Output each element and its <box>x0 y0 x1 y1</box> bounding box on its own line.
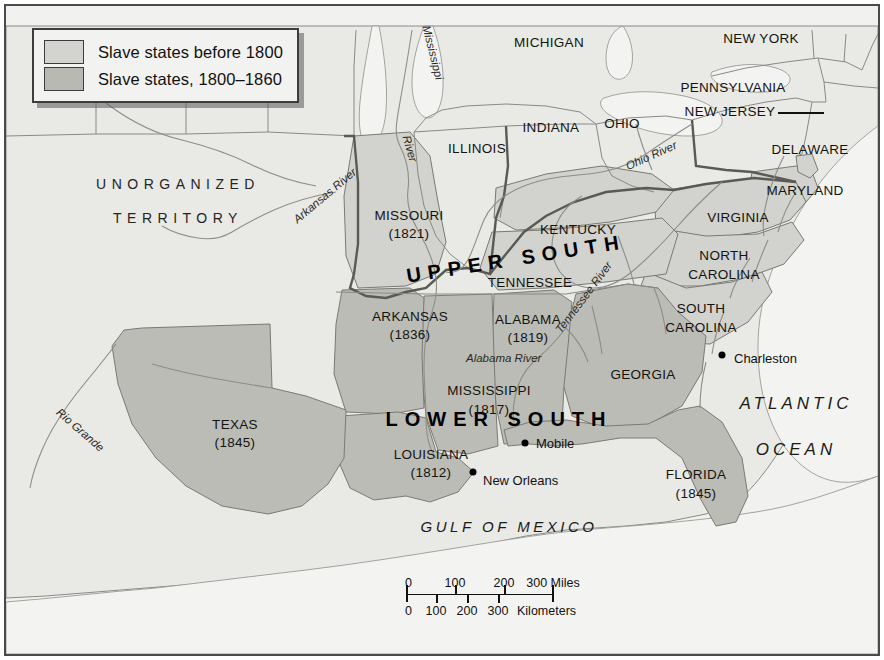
scale-km-unit: Kilometers <box>517 604 576 618</box>
legend-label-1800-1860: Slave states, 1800–1860 <box>98 70 282 89</box>
new-jersey-leader-line <box>778 112 824 114</box>
scale-km-100: 100 <box>426 604 447 618</box>
legend-swatch-before-1800 <box>44 40 84 64</box>
scale-tick-km-200 <box>467 594 469 603</box>
legend-item-1800-1860: Slave states, 1800–1860 <box>44 67 283 91</box>
city-dot-mobile <box>522 440 529 447</box>
legend-swatch-1800-1860 <box>44 67 84 91</box>
city-dot-charleston <box>719 352 726 359</box>
map-legend: Slave states before 1800 Slave states, 1… <box>32 28 299 103</box>
map-geometry: .land { fill:#e9e9e6; stroke:#8a8a84; st… <box>6 6 878 654</box>
legend-label-before-1800: Slave states before 1800 <box>98 43 283 62</box>
scale-km-300: 300 <box>488 604 509 618</box>
legend-item-before-1800: Slave states before 1800 <box>44 40 283 64</box>
scale-tick-km-300 <box>498 594 500 603</box>
scale-km-200: 200 <box>457 604 478 618</box>
scale-kilometers-labels: 0 100 200 300 Kilometers <box>405 604 585 620</box>
city-dot-new-orleans <box>470 469 477 476</box>
scale-km-0: 0 <box>405 604 412 618</box>
scale-line <box>406 594 554 595</box>
scale-cap-left <box>406 585 408 602</box>
map-figure: .land { fill:#e9e9e6; stroke:#8a8a84; st… <box>0 0 884 660</box>
scale-tick-miles-200 <box>504 585 506 594</box>
map-scale-bar: 0 100 200 300 Miles 0 100 200 300 Kilome… <box>405 576 585 620</box>
scale-miles-labels: 0 100 200 300 Miles <box>405 576 585 592</box>
scale-cap-right <box>552 585 554 602</box>
scale-tick-miles-100 <box>455 585 457 594</box>
map-frame: .land { fill:#e9e9e6; stroke:#8a8a84; st… <box>4 4 880 656</box>
scale-tick-km-100 <box>436 594 438 603</box>
